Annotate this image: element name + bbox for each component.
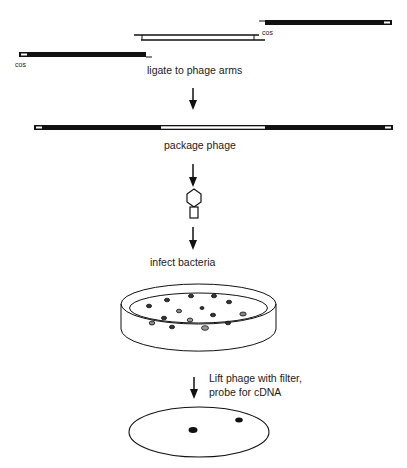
step-label-infect: infect bacteria: [150, 256, 215, 268]
arrow-down-icon: [189, 88, 197, 110]
left-phage-arm: [19, 52, 152, 57]
filter-membrane: [129, 407, 269, 457]
arrow-down-icon: [189, 227, 197, 250]
cos-label-left: cos: [15, 61, 26, 68]
step-label-package: package phage: [164, 139, 236, 151]
right-phage-arm: [259, 20, 392, 25]
step-label-ligate: ligate to phage arms: [147, 64, 242, 76]
cos-label-right: cos: [262, 29, 273, 36]
arrow-down-icon: [190, 377, 198, 399]
step-label-lift-line2: probe for cDNA: [209, 386, 281, 398]
positive-spot: [235, 418, 243, 423]
cdna-insert: [134, 35, 265, 40]
arrow-down-icon: [189, 164, 197, 187]
petri-dish: [121, 284, 276, 351]
positive-spot: [189, 427, 198, 433]
plaques: [146, 294, 246, 330]
recombinant-phage-dna: [34, 125, 393, 130]
step-label-lift-line1: Lift phage with filter,: [209, 372, 302, 384]
phage-particle-icon: [187, 189, 201, 218]
